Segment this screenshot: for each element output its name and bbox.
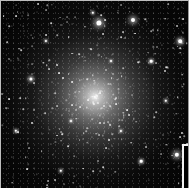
faint-star [102,33,104,35]
star [110,60,112,62]
faint-star [83,133,85,135]
faint-star [176,25,178,27]
faint-star [44,112,46,114]
faint-star [122,31,124,33]
faint-star [78,108,79,109]
faint-star [60,24,62,26]
faint-star [125,76,127,78]
faint-star [59,128,61,130]
faint-star [31,122,33,124]
faint-star [72,113,73,114]
faint-star [99,122,101,124]
faint-star [66,108,68,110]
faint-star [90,48,92,50]
faint-star [80,106,82,108]
faint-star [133,119,135,121]
faint-star [153,46,154,47]
faint-star [71,104,73,106]
faint-star [23,25,24,26]
faint-star [172,155,174,157]
faint-star [121,179,122,180]
faint-star [101,114,102,115]
faint-star [65,109,66,110]
faint-star [90,28,92,30]
faint-star [48,68,50,70]
faint-star [122,119,124,121]
faint-star [79,139,81,141]
faint-star [104,131,106,133]
faint-star [23,11,24,12]
faint-star [88,140,89,141]
faint-star [46,9,48,11]
faint-star [67,145,69,147]
faint-star [84,26,86,28]
faint-star [98,54,100,56]
faint-star [181,61,182,62]
faint-star [87,99,89,101]
faint-star [96,102,97,103]
faint-star [16,5,17,6]
faint-star [31,45,33,47]
faint-star [186,42,188,44]
faint-star [160,153,162,155]
faint-star [97,160,99,162]
faint-star [9,98,11,100]
faint-star [135,121,137,123]
star-cluster-image [0,0,189,188]
faint-star [102,166,104,168]
faint-star [144,78,145,79]
faint-star [101,88,102,89]
faint-star [37,3,39,5]
faint-star [105,107,106,108]
faint-star [99,38,100,39]
faint-star [15,69,16,70]
faint-star [100,22,102,24]
faint-star [167,97,168,98]
faint-star [125,21,127,23]
faint-star [99,20,100,21]
faint-star [39,100,40,101]
faint-star [105,147,107,149]
faint-star [125,37,127,39]
faint-star [36,12,37,13]
faint-star [6,107,8,109]
faint-star [55,120,56,121]
faint-star [47,180,49,182]
faint-star [139,37,140,38]
faint-star [25,156,27,158]
faint-star [106,47,108,49]
faint-star [181,132,183,134]
faint-star [85,60,87,62]
faint-star [105,70,107,72]
faint-star [27,164,29,166]
faint-star [61,101,62,102]
faint-star [81,69,82,70]
faint-star [96,187,97,188]
faint-star [115,103,117,105]
faint-star [164,18,166,20]
faint-star [75,109,77,111]
faint-star [100,14,102,16]
faint-star [12,182,14,184]
faint-star [21,50,23,52]
faint-star [109,148,110,149]
faint-star [22,16,23,17]
faint-star [179,17,181,19]
faint-star [125,93,126,94]
faint-star [74,156,76,158]
faint-star [182,18,184,20]
faint-star [167,3,169,5]
faint-star [109,105,110,106]
faint-star [17,131,19,133]
inset-frame [182,144,189,188]
faint-star [48,95,49,96]
faint-star [56,105,58,107]
faint-star [75,104,77,106]
faint-star [46,187,48,188]
faint-star [155,111,157,113]
faint-star [58,72,60,74]
faint-star [52,82,53,83]
faint-star [130,142,132,144]
faint-star [111,77,113,79]
faint-star [15,15,17,17]
